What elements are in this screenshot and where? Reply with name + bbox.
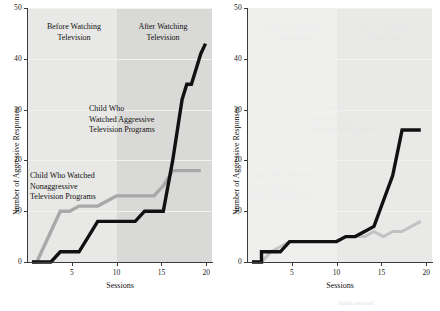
annotation-line-1: After Watching: [123, 22, 203, 33]
annotation-phase-before-left: Before Watching Television: [34, 22, 114, 43]
annotation-line-2: Nonaggressive: [250, 182, 350, 193]
y-tick-label-0: 0: [224, 257, 242, 266]
annotation-series-aggressive-right: Child Who Watched Aggressive Television …: [309, 104, 405, 136]
annotation-line-2: Television: [123, 33, 203, 44]
y-tick-label-40: 40: [4, 54, 22, 63]
annotation-line-3: Television Programs: [250, 192, 350, 203]
y-tick-50: [24, 8, 27, 9]
annotation-phase-before-right: Before Watching Television: [254, 22, 334, 43]
annotation-line-1: Child Who: [309, 104, 405, 115]
y-tick-10: [24, 211, 27, 212]
x-tick-20: [206, 263, 207, 266]
annotation-line-3: Television Programs: [309, 125, 405, 136]
annotation-line-1: Child Who Watched: [30, 171, 130, 182]
x-tick-label-10: 10: [107, 268, 127, 277]
y-tick-label-40: 40: [224, 54, 242, 63]
x-tick-label-15: 15: [151, 268, 171, 277]
x-tick-20: [426, 263, 427, 266]
x-tick-15: [161, 263, 162, 266]
y-axis-title-right: Number of Aggressive Responses: [232, 107, 241, 215]
annotation-line-1: Child Who: [89, 104, 185, 115]
y-tick-label-0: 0: [4, 257, 22, 266]
x-tick-label-5: 5: [282, 268, 302, 277]
annotation-line-2: Watched Aggressive: [309, 115, 405, 126]
annotation-line-2: Television: [254, 33, 334, 44]
annotation-line-2: Watched Aggressive: [89, 115, 185, 126]
y-tick-40: [24, 59, 27, 60]
y-axis-title-left: Number of Aggressive Responses: [12, 107, 21, 215]
annotation-line-1: Before Watching: [34, 22, 114, 33]
chart-panel-left: Before Watching Television After Watchin…: [0, 0, 220, 311]
annotation-line-1: Before Watching: [254, 22, 334, 33]
x-tick-label-15: 15: [371, 268, 391, 277]
plot-area-right: Before Watching Television After Watchin…: [248, 8, 432, 262]
annotation-line-2: Television: [34, 33, 114, 44]
x-axis-title-right: Sessions: [300, 281, 380, 290]
y-tick-20: [244, 160, 247, 161]
x-axis-left: [27, 262, 213, 263]
annotation-phase-after-left: After Watching Television: [123, 22, 203, 43]
y-tick-label-50: 50: [224, 3, 242, 12]
y-tick-30: [24, 110, 27, 111]
y-tick-20: [24, 160, 27, 161]
annotation-line-3: Television Programs: [89, 125, 185, 136]
annotation-line-1: After Watching: [343, 22, 423, 33]
x-tick-label-5: 5: [62, 268, 82, 277]
chart-panel-right: Before Watching Television After Watchin…: [220, 0, 440, 311]
x-tick-10: [337, 263, 338, 266]
x-tick-label-20: 20: [416, 268, 436, 277]
y-axis-right: [247, 8, 248, 263]
annotation-line-3: Television Programs: [30, 192, 130, 203]
annotation-line-2: Television: [343, 33, 423, 44]
y-tick-10: [244, 211, 247, 212]
annotation-phase-after-right: After Watching Television: [343, 22, 423, 43]
y-tick-50: [244, 8, 247, 9]
footer-cut-text: rights reserved: [338, 300, 374, 306]
x-axis-title-left: Sessions: [80, 281, 160, 290]
annotation-series-nonaggressive-left: Child Who Watched Nonaggressive Televisi…: [30, 171, 130, 203]
x-tick-15: [381, 263, 382, 266]
x-tick-5: [292, 263, 293, 266]
annotation-line-1: Child Who Watched: [250, 171, 350, 182]
plot-area-left: Before Watching Television After Watchin…: [28, 8, 212, 262]
annotation-series-nonaggressive-right: Child Who Watched Nonaggressive Televisi…: [250, 171, 350, 203]
x-tick-label-20: 20: [196, 268, 216, 277]
y-tick-0: [244, 262, 247, 263]
line-aggressive-left: [32, 44, 206, 262]
y-axis-left: [27, 8, 28, 263]
x-tick-10: [117, 263, 118, 266]
y-tick-0: [24, 262, 27, 263]
y-tick-label-50: 50: [4, 3, 22, 12]
x-axis-right: [247, 262, 433, 263]
annotation-line-2: Nonaggressive: [30, 182, 130, 193]
y-tick-40: [244, 59, 247, 60]
annotation-series-aggressive-left: Child Who Watched Aggressive Television …: [89, 104, 185, 136]
x-tick-5: [72, 263, 73, 266]
x-tick-label-10: 10: [327, 268, 347, 277]
y-tick-30: [244, 110, 247, 111]
